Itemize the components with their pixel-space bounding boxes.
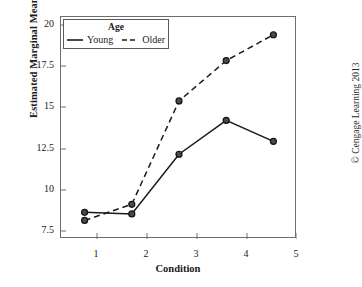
y-tick-label-group: 20 17.5 15 12.5 10 7.5: [22, 0, 54, 287]
x-axis-title: Condition: [60, 263, 296, 274]
x-tick-label: 4: [236, 248, 256, 259]
data-point[interactable]: [270, 32, 276, 38]
series-young: [82, 117, 277, 217]
solid-line-icon: [67, 36, 83, 44]
y-tick-label: 20: [24, 19, 54, 29]
y-tick-label: 7.5: [24, 225, 54, 235]
dashed-line-icon: [122, 36, 138, 44]
x-tick-label: 5: [286, 248, 306, 259]
series-line: [85, 120, 274, 214]
data-point[interactable]: [82, 217, 88, 223]
legend: Age Young Older: [63, 19, 169, 49]
legend-label-older: Older: [142, 34, 165, 45]
figure-container: Estimated Marginal Means 20 17.5 15 12.5…: [0, 0, 362, 287]
data-point[interactable]: [176, 151, 182, 157]
data-point[interactable]: [223, 117, 229, 123]
legend-label-young: Young: [87, 34, 113, 45]
data-point[interactable]: [223, 58, 229, 64]
y-tick-label: 10: [24, 184, 54, 194]
copyright-notice: © Cengage Learning 2013: [351, 33, 361, 193]
y-tick-label: 12.5: [24, 143, 54, 153]
x-tick-label: 3: [186, 248, 206, 259]
data-point[interactable]: [129, 201, 135, 207]
legend-item-young[interactable]: Young: [67, 34, 113, 45]
series-line: [85, 35, 274, 221]
series-layer: [82, 32, 277, 224]
data-point[interactable]: [129, 211, 135, 217]
legend-items: Young Older: [67, 34, 165, 45]
x-tick-label: 1: [86, 248, 106, 259]
chart-canvas: [61, 17, 297, 239]
plot-area: [60, 16, 296, 238]
y-tick-label: 17.5: [24, 60, 54, 70]
y-tick-marks: [61, 25, 66, 231]
data-point[interactable]: [176, 98, 182, 104]
data-point[interactable]: [82, 209, 88, 215]
legend-title: Age: [67, 22, 165, 33]
series-older: [82, 32, 277, 224]
y-tick-label: 15: [24, 101, 54, 111]
data-point[interactable]: [270, 138, 276, 144]
x-tick-marks: [97, 233, 297, 239]
x-tick-label: 2: [136, 248, 156, 259]
legend-item-older[interactable]: Older: [122, 34, 165, 45]
